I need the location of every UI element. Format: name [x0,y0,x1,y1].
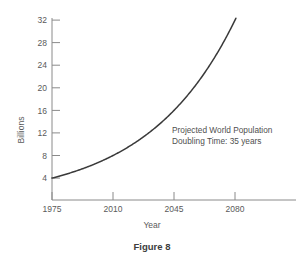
y-axis-ticks [52,20,60,178]
annotation-line-1: Projected World Population [172,125,273,135]
figure-caption: Figure 8 [134,241,171,252]
y-tick-label-8: 8 [42,151,47,161]
y-tick-label-12: 12 [38,128,48,138]
y-tick-label-16: 16 [38,106,48,116]
x-tick-label-2080: 2080 [226,204,245,214]
x-tick-label-2010: 2010 [104,204,123,214]
x-axis-ticks [52,192,235,200]
y-axis-title: Billions [16,117,26,144]
y-axis-tick-labels: 32 28 24 20 16 12 8 4 [38,15,48,183]
x-tick-label-2045: 2045 [165,204,184,214]
x-tick-label-1975: 1975 [43,204,62,214]
annotation-line-2: Doubling Time: 35 years [172,136,261,146]
y-tick-label-4: 4 [42,173,47,183]
chart-annotation: Projected World Population Doubling Time… [172,125,273,146]
y-tick-label-32: 32 [38,15,48,25]
figure-container: 32 28 24 20 16 12 8 4 Billions 1975 2010… [0,0,308,262]
population-growth-chart: 32 28 24 20 16 12 8 4 Billions 1975 2010… [0,0,308,262]
y-tick-label-20: 20 [38,83,48,93]
y-tick-label-24: 24 [38,60,48,70]
population-curve [52,18,236,178]
x-axis-tick-labels: 1975 2010 2045 2080 [43,204,245,214]
x-axis-title: Year [143,220,160,230]
y-tick-label-28: 28 [38,38,48,48]
